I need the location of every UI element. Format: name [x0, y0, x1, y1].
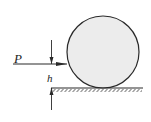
dimension-arrowhead-bottom — [50, 88, 54, 95]
diagram-svg — [0, 0, 151, 122]
dimension-arrowhead-top — [50, 57, 54, 64]
ground-hatching — [53, 89, 142, 92]
force-label-P: P — [14, 51, 22, 67]
height-label-h: h — [47, 72, 53, 84]
diagram-canvas: P h — [0, 0, 151, 122]
force-arrowhead — [56, 62, 67, 66]
cylinder — [67, 16, 139, 88]
